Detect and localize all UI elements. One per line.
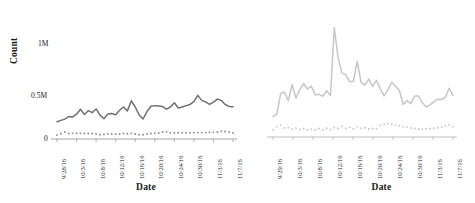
x-tick-label: 10/12/16 bbox=[336, 156, 343, 179]
series-secondary-dots bbox=[272, 123, 454, 131]
chart-panel-right: 9/29/1610/3/1610/8/1610/12/1610/16/1610/… bbox=[240, 0, 475, 203]
x-tick-labels-left: 9/28/1610/3/1610/8/1610/12/1610/16/1610/… bbox=[0, 145, 240, 181]
figure-root: Count 1M 0.5M 0 9/28/1610/3/1610/8/1610/… bbox=[0, 0, 475, 203]
x-tick-label: 10/30/16 bbox=[416, 156, 423, 179]
x-tick-label: 10/20/16 bbox=[157, 156, 164, 179]
x-tick-label: 9/29/16 bbox=[276, 159, 283, 179]
x-tick-label: 10/8/16 bbox=[316, 159, 323, 179]
x-tick-labels-right: 9/29/1610/3/1610/8/1610/12/1610/16/1610/… bbox=[240, 145, 475, 181]
x-tick-label: 10/24/16 bbox=[177, 156, 184, 179]
x-tick-label: 10/30/16 bbox=[196, 156, 203, 179]
x-tick-label: 10/3/16 bbox=[296, 159, 303, 179]
x-tick-label: 10/16/16 bbox=[356, 156, 363, 179]
x-axis-title-left: Date bbox=[0, 182, 266, 192]
series-secondary-dots bbox=[56, 130, 234, 136]
x-tick-label: 11/7/16 bbox=[456, 159, 463, 179]
x-axis-title-right: Date bbox=[240, 182, 475, 192]
x-tick-label: 10/3/16 bbox=[79, 159, 86, 179]
x-tick-label: 10/12/16 bbox=[118, 156, 125, 179]
x-tick-label: 11/3/16 bbox=[436, 159, 443, 179]
x-tick-label: 10/8/16 bbox=[99, 159, 106, 179]
x-tick-label: 10/16/16 bbox=[138, 156, 145, 179]
x-tick-label: 10/20/16 bbox=[376, 156, 383, 179]
series-primary-line bbox=[57, 95, 233, 121]
chart-panel-left: Count 1M 0.5M 0 9/28/1610/3/1610/8/1610/… bbox=[0, 0, 240, 203]
x-tick-label: 10/24/16 bbox=[396, 156, 403, 179]
series-primary-line bbox=[273, 28, 453, 117]
x-tick-label: 11/3/16 bbox=[216, 159, 223, 179]
x-tick-label: 9/28/16 bbox=[60, 159, 67, 179]
